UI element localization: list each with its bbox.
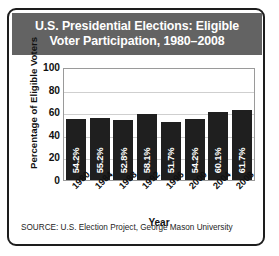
plot-area: 54.2%55.2%52.8%58.1%51.7%54.2%60.1%61.7% [63, 68, 255, 181]
y-axis-tick-40: 40 [49, 131, 60, 141]
bar-value-label: 55.2% [94, 148, 105, 174]
bar-value-label: 52.8% [118, 148, 129, 174]
source-note: SOURCE: U.S. Election Project, George Ma… [21, 223, 233, 232]
y-axis-tick-20: 20 [49, 153, 60, 163]
chart-title: U.S. Presidential Elections: Eligible Vo… [31, 19, 243, 49]
bar-value-label: 51.7% [165, 148, 176, 174]
bar-value-label: 60.1% [213, 148, 224, 174]
x-axis-tick-labels: 19801984198819921996200020042008 [63, 184, 255, 218]
y-axis-tick-100: 100 [43, 63, 60, 73]
y-axis-tick-labels: 100806040200 [30, 68, 60, 181]
chart-figure: U.S. Presidential Elections: Eligible Vo… [7, 8, 265, 246]
bar-series: 54.2%55.2%52.8%58.1%51.7%54.2%60.1%61.7% [66, 69, 252, 180]
chart-title-line-2: Voter Participation, 1980–2008 [35, 34, 239, 49]
chart-body: Percentage of Eligible Voters 1008060402… [12, 55, 262, 223]
bar-value-label: 61.7% [236, 148, 247, 174]
y-axis-tick-0: 0 [54, 176, 60, 186]
chart-title-banner: U.S. Presidential Elections: Eligible Vo… [12, 13, 262, 55]
y-axis-tick-60: 60 [49, 108, 60, 118]
chart-title-line-1: U.S. Presidential Elections: Eligible [35, 19, 239, 33]
bar-value-label: 58.1% [142, 148, 153, 174]
bar-value-label: 54.2% [189, 148, 200, 174]
bar-value-label: 54.2% [71, 148, 82, 174]
y-axis-tick-80: 80 [49, 85, 60, 95]
